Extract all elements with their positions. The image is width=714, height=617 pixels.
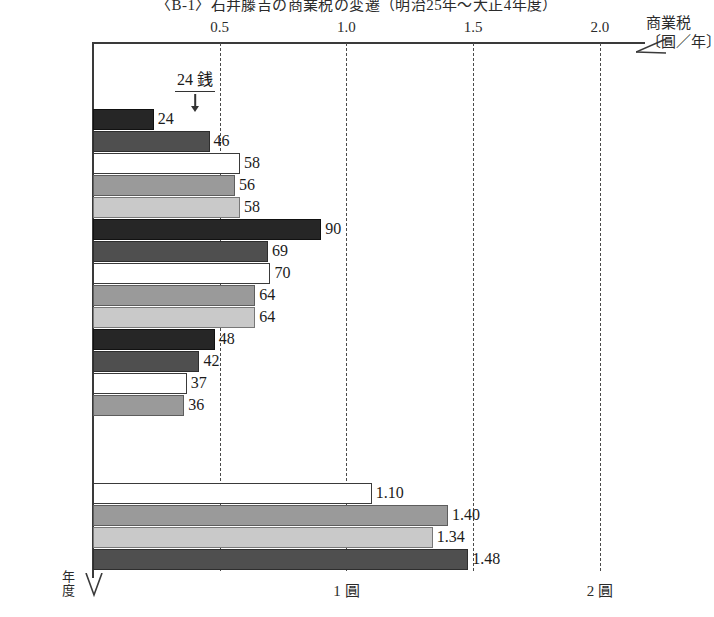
- bar-value-label: 48: [219, 331, 235, 347]
- chart-row: M3848: [93, 329, 638, 351]
- x-axis-tick-label: 0.5: [210, 19, 229, 36]
- y-axis-caption-line2: 度: [56, 584, 80, 598]
- bar-value-label: 36: [188, 397, 204, 413]
- plot-area: 0.51.01.52.01 圓2 圓M25M26M27M2824M2946M30…: [93, 43, 638, 571]
- bar-value-label: 46: [214, 133, 230, 149]
- chart-row: M3058: [93, 153, 638, 175]
- page-title: 〈B-1〉石井藤吉の商業税の変遷（明治25年～大正4年度）: [0, 0, 714, 14]
- chart-row: M45、T11.10: [93, 483, 638, 505]
- bar: [93, 527, 433, 548]
- chart-row: M3764: [93, 307, 638, 329]
- bar: [93, 219, 321, 240]
- bar: [93, 373, 187, 394]
- x-axis-unit-text: 〔圓／年〕: [646, 33, 714, 52]
- bar-value-label: 58: [244, 155, 260, 171]
- bar-value-label: 70: [274, 265, 290, 281]
- chart-row: M3156: [93, 175, 638, 197]
- x-axis-foot-label: 1 圓: [333, 579, 359, 600]
- bar: [93, 285, 255, 306]
- x-axis-caption: 商業税 〔圓／年〕: [646, 14, 714, 52]
- chart-row: T21.40: [93, 505, 638, 527]
- chart-row: M3664: [93, 285, 638, 307]
- bar-value-label: 1.40: [452, 507, 480, 523]
- chart-row: M27: [93, 87, 638, 109]
- chart-row: M25: [93, 43, 638, 65]
- chart-row: M3469: [93, 241, 638, 263]
- x-axis-foot-label: 2 圓: [587, 579, 613, 600]
- chart-row: M3390: [93, 219, 638, 241]
- bar-value-label: 37: [191, 375, 207, 391]
- x-axis-tick-label: 1.5: [464, 19, 483, 36]
- bar: [93, 241, 268, 262]
- bar-value-label: 64: [259, 309, 275, 325]
- chart-row: M4136: [93, 395, 638, 417]
- bar-value-label: 24: [158, 111, 174, 127]
- chart-row: M3942: [93, 351, 638, 373]
- bar-value-label: 42: [203, 353, 219, 369]
- bar-value-label: 1.48: [472, 551, 500, 567]
- chart-row: M2824: [93, 109, 638, 131]
- bar-value-label: 90: [325, 221, 341, 237]
- bar: [93, 131, 210, 152]
- y-axis-caption: 年 度: [56, 570, 80, 597]
- bar: [93, 153, 240, 174]
- chart-row: M4037: [93, 373, 638, 395]
- chart-row: M44: [93, 461, 638, 483]
- chart-row: M43: [93, 439, 638, 461]
- bar-value-label: 1.10: [376, 485, 404, 501]
- bar: [93, 395, 184, 416]
- x-axis-tick-label: 1.0: [337, 19, 356, 36]
- bar-value-label: 64: [259, 287, 275, 303]
- bar-value-label: 56: [239, 177, 255, 193]
- y-axis-caption-line1: 年: [56, 570, 80, 584]
- bar: [93, 307, 255, 328]
- chart-row: M2946: [93, 131, 638, 153]
- bar: [93, 329, 215, 350]
- bar: [93, 109, 154, 130]
- bar: [93, 175, 235, 196]
- chart-row: M42: [93, 417, 638, 439]
- bar-value-label: 1.34: [437, 529, 465, 545]
- chart-row: M26: [93, 65, 638, 87]
- x-axis-tick-label: 2.0: [591, 19, 610, 36]
- bar: [93, 549, 468, 570]
- chart-row: M3570: [93, 263, 638, 285]
- chart-row: T31.34: [93, 527, 638, 549]
- x-axis-caption-text: 商業税: [646, 15, 691, 31]
- bar: [93, 351, 199, 372]
- y-axis-arrow-icon: [83, 573, 105, 599]
- bar-value-label: 69: [272, 243, 288, 259]
- bar: [93, 197, 240, 218]
- bar: [93, 505, 448, 526]
- bar: [93, 483, 372, 504]
- chart-row: T41.48: [93, 549, 638, 571]
- bar-value-label: 58: [244, 199, 260, 215]
- bar: [93, 263, 270, 284]
- chart-row: M3258: [93, 197, 638, 219]
